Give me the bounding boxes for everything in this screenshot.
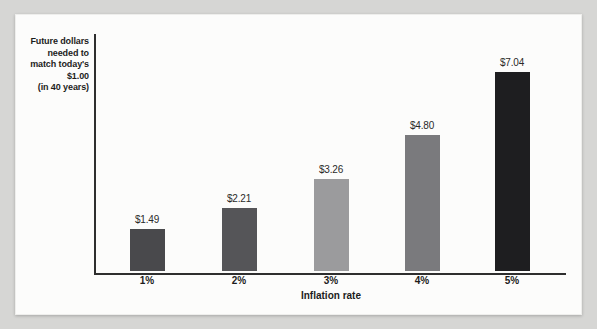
x-tick-label: 4% [387,275,457,286]
bar [495,72,530,271]
bar [222,208,257,271]
bar-value-label: $7.04 [500,57,524,68]
bar-group: $7.045% [477,57,547,271]
bar-group: $2.212% [204,193,274,271]
bar-value-label: $3.26 [319,164,343,175]
bar [130,229,165,271]
y-axis-line [94,34,96,273]
bar-group: $4.804% [387,120,457,271]
y-axis-label: Future dollarsneeded tomatch today's$1.0… [22,36,89,94]
x-tick-label: 3% [296,275,366,286]
x-tick-label: 5% [477,275,547,286]
bar-value-label: $2.21 [227,193,251,204]
bar [314,179,349,271]
page-background: Future dollarsneeded tomatch today's$1.0… [0,0,597,329]
bar [405,135,440,271]
bar-value-label: $1.49 [135,214,159,225]
bar-value-label: $4.80 [410,120,434,131]
x-tick-label: 2% [204,275,274,286]
x-tick-label: 1% [112,275,182,286]
bar-group: $3.263% [296,164,366,271]
x-axis-title: Inflation rate [231,290,431,301]
bar-group: $1.491% [112,214,182,271]
chart-panel: Future dollarsneeded tomatch today's$1.0… [15,14,582,315]
